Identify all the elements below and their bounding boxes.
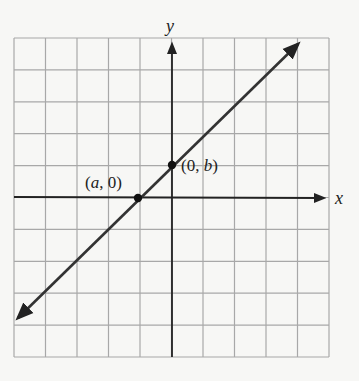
x-intercept-label: (a, 0) bbox=[85, 173, 122, 192]
y-intercept-label: (0, b) bbox=[181, 156, 218, 175]
x-intercept-var: a bbox=[91, 173, 100, 192]
linear-function-line bbox=[18, 44, 298, 318]
x-axis bbox=[14, 197, 324, 198]
y-intercept-point bbox=[168, 161, 176, 169]
coordinate-plane: x y (a, 0) (0, b) bbox=[0, 0, 359, 381]
x-axis-label: x bbox=[334, 188, 343, 208]
x-intercept-point bbox=[134, 194, 142, 202]
y-intercept-var: b bbox=[204, 156, 213, 175]
y-axis-label: y bbox=[164, 16, 174, 36]
